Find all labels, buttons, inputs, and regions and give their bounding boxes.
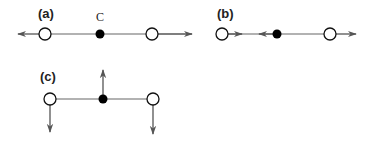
panel-a: (a) C xyxy=(18,6,192,40)
open-node-left xyxy=(39,28,51,40)
open-node-right xyxy=(146,28,158,40)
filled-node-center xyxy=(273,30,282,39)
panel-c: (c) xyxy=(40,69,159,134)
filled-node-center xyxy=(96,30,105,39)
open-node-right xyxy=(324,28,336,40)
open-node-right xyxy=(147,93,159,105)
filled-node-center xyxy=(99,95,108,104)
open-node-left xyxy=(216,28,228,40)
center-node-label: C xyxy=(96,10,104,24)
open-node-left xyxy=(44,93,56,105)
panel-c-label: (c) xyxy=(40,69,56,84)
panel-a-label: (a) xyxy=(38,6,54,21)
panel-b-label: (b) xyxy=(217,6,234,21)
panel-b: (b) xyxy=(216,6,356,40)
displacement-diagram: (a) C (b) (c) xyxy=(0,0,372,144)
